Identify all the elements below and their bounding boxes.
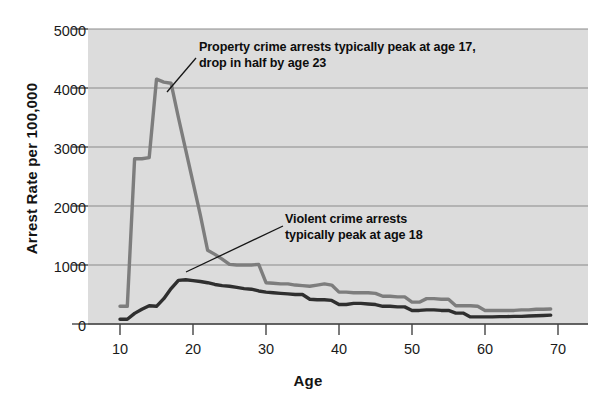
x-tick-20: 20: [173, 341, 213, 357]
annotation-property-crime: Property crime arrests typically peak at…: [199, 40, 476, 72]
x-tick-30: 30: [246, 341, 286, 357]
x-tick-70: 70: [538, 341, 578, 357]
y-tick-2000: 2000: [28, 200, 86, 216]
x-tick-60: 60: [465, 341, 505, 357]
x-tick-50: 50: [392, 341, 432, 357]
annotation-violent-crime: Violent crime arrests typically peak at …: [285, 212, 423, 244]
arrest-rate-by-age-chart: Arrest Rate per 100,000 Age 5000 4000 30…: [0, 0, 616, 404]
x-axis-title: Age: [0, 372, 616, 389]
y-tick-0: 0: [28, 318, 86, 334]
x-tick-40: 40: [319, 341, 359, 357]
y-tick-4000: 4000: [28, 82, 86, 98]
y-tick-5000: 5000: [28, 23, 86, 39]
plot-background: [88, 29, 588, 324]
y-tick-1000: 1000: [28, 259, 86, 275]
y-tick-3000: 3000: [28, 141, 86, 157]
x-tick-10: 10: [100, 341, 140, 357]
